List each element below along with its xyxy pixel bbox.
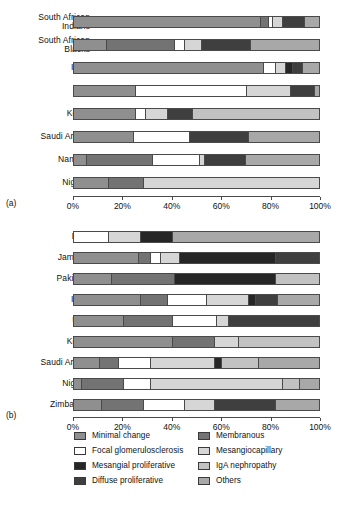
bar-segment [221,358,258,368]
bar-segment [172,337,214,347]
bar-segment [246,86,290,96]
legend-item: Membranous [198,428,282,443]
legend-swatch-icon [74,432,86,440]
bar-row: Namibia [0,148,342,171]
bar-segment [238,337,319,347]
stacked-bar [73,39,320,51]
x-tick-label: 0% [67,201,79,211]
bar-segment [290,86,315,96]
stacked-bar [73,399,320,411]
bar-rows-b: PeruJamaicaPakistanIndiaUAEKoreaSaudi Ar… [0,226,342,415]
stacked-bar [73,177,320,189]
x-tick-mark [221,197,222,200]
bar-segment [189,132,248,142]
bar-segment [192,109,319,119]
bar-segment [74,379,81,389]
stacked-bar [73,315,320,327]
x-tick-label: 40% [163,201,180,211]
bar-row: India [0,289,342,310]
bar-segment [123,316,172,326]
panel-label-a: (a) [6,198,16,208]
legend-column-left: Minimal changeFocal glomerulosclerosisMe… [74,428,183,488]
legend-label: Minimal change [92,431,150,440]
bar-segment [214,358,221,368]
bar-segment [285,63,292,73]
bar-row: Nigeria [0,373,342,394]
bar-segment [101,400,143,410]
bar-segment [74,316,123,326]
stacked-bar [73,252,320,264]
legend-swatch-icon [74,462,86,470]
stacked-bar [73,357,320,369]
stacked-bar [73,108,320,120]
x-tick-mark [172,418,173,421]
x-tick-mark [271,418,272,421]
legend-column-right: MembranousMesangiocapillaryIgA nephropat… [198,428,282,488]
x-tick-label: 60% [213,201,230,211]
bar-segment [74,132,133,142]
bar-segment [275,63,285,73]
legend-swatch-icon [74,477,86,485]
bar-segment [258,358,319,368]
bar-segment [138,253,150,263]
bar-segment [74,400,101,410]
bar-segment [299,379,319,389]
panel-label-b: (b) [6,410,16,420]
bar-segment [108,232,140,242]
bar-segment [99,358,119,368]
legend-swatch-icon [198,432,210,440]
legend-item: Others [198,473,282,488]
bar-segment [282,379,299,389]
bar-row: Zimbabwe [0,394,342,415]
bar-segment [206,295,248,305]
bar-segment [302,63,319,73]
stacked-bar [73,231,320,243]
legend-item: IgA nephropathy [198,458,282,473]
bar-segment [74,178,108,188]
bar-segment [150,253,160,263]
x-tick-label: 20% [114,201,131,211]
bar-segment [74,358,99,368]
bar-segment [74,253,138,263]
bar-row: Saudi Arabia [0,352,342,373]
bar-segment [228,316,319,326]
bar-segment [172,316,216,326]
bar-segment [123,379,150,389]
stacked-bar [73,294,320,306]
bar-row: UAE [0,310,342,331]
legend-swatch-icon [198,447,210,455]
bar-segment [152,155,199,165]
x-tick-mark [122,418,123,421]
bar-segment [245,155,319,165]
stacked-bar [73,154,320,166]
bar-segment [214,337,239,347]
legend-item: Minimal change [74,428,183,443]
bar-segment [143,400,185,410]
bar-segment [255,295,277,305]
bar-segment [275,274,319,284]
bar-row: Pakistan [0,268,342,289]
x-tick-mark [73,197,74,200]
bar-segment [74,17,260,27]
stacked-bar [73,85,320,97]
bar-segment [184,40,201,50]
bar-segment [277,295,319,305]
bar-segment [140,295,167,305]
x-tick-label: 100% [309,201,331,211]
bar-row: South AfricanBlacks [0,33,342,56]
legend-item: Mesangial proliferative [74,458,183,473]
bar-segment [74,295,140,305]
bar-segment [74,232,108,242]
x-axis-ticks-a: 0%20%40%60%80%100% [0,197,342,209]
bar-segment [150,358,214,368]
bar-row: Nigeria [0,171,342,194]
stacked-bar [73,273,320,285]
stacked-bar [73,131,320,143]
x-tick-mark [320,418,321,421]
bar-segment [201,40,250,50]
bar-segment [118,358,150,368]
bar-segment [86,155,152,165]
bar-rows-a: South AfricanIndiansSouth AfricanBlacksI… [0,10,342,194]
stacked-bar [73,336,320,348]
bar-segment [282,17,304,27]
